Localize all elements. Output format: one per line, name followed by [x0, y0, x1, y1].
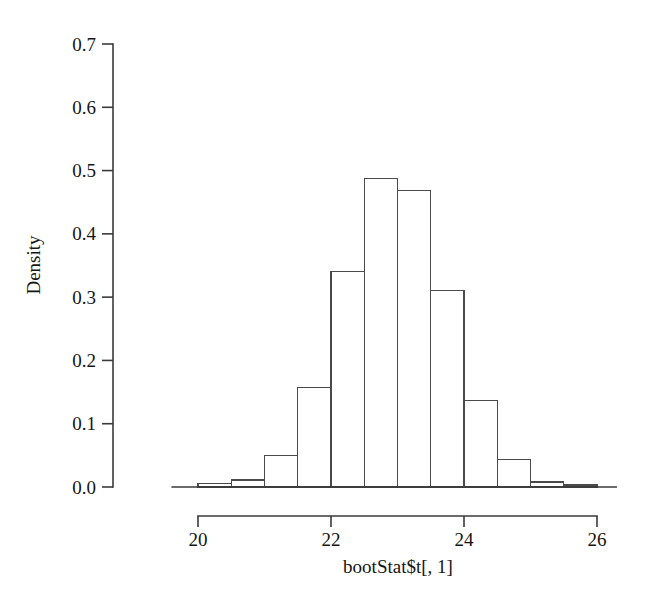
- chart-canvas: 0.00.10.20.30.40.50.60.7 20222426 bootSt…: [0, 0, 665, 600]
- y-tick-label: 0.5: [72, 160, 96, 181]
- y-axis: [102, 44, 113, 487]
- y-tick-label: 0.6: [72, 97, 96, 118]
- y-tick-label: 0.0: [72, 477, 96, 498]
- x-tick-label: 24: [455, 529, 475, 550]
- histogram-bar: [231, 480, 264, 487]
- histogram-bars: [198, 179, 597, 487]
- histogram-bar: [298, 388, 331, 487]
- y-axis-title: Density: [23, 235, 44, 295]
- histogram-bar: [431, 291, 464, 487]
- histogram-bar: [398, 191, 431, 487]
- histogram-bar: [464, 400, 497, 487]
- y-tick-label: 0.2: [72, 350, 96, 371]
- histogram-bar: [265, 455, 298, 487]
- x-axis-title: bootStat$t[, 1]: [343, 556, 453, 577]
- y-tick-label: 0.3: [72, 287, 96, 308]
- histogram-bar: [364, 179, 397, 487]
- y-tick-label: 0.4: [72, 223, 96, 244]
- x-tick-label: 20: [189, 529, 208, 550]
- y-tick-label: 0.1: [72, 413, 96, 434]
- x-axis: [198, 516, 597, 527]
- y-tick-label: 0.7: [72, 34, 96, 55]
- x-tick-label: 22: [322, 529, 341, 550]
- y-axis-tick-labels: 0.00.10.20.30.40.50.60.7: [72, 34, 96, 498]
- histogram-bar: [497, 459, 530, 487]
- histogram-bar: [331, 272, 364, 487]
- histogram-plot: 0.00.10.20.30.40.50.60.7 20222426 bootSt…: [0, 0, 665, 600]
- x-axis-tick-labels: 20222426: [189, 529, 607, 550]
- x-tick-label: 26: [588, 529, 607, 550]
